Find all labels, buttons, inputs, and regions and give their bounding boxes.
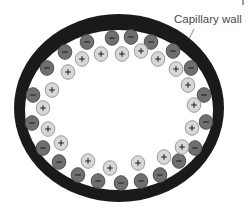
diagram-canvas: [0, 0, 248, 215]
positive-ion: [131, 156, 145, 171]
positive-ion: [103, 161, 117, 176]
negative-ion: [124, 30, 138, 45]
positive-ion: [151, 52, 165, 67]
negative-ion: [26, 88, 40, 103]
negative-ion: [80, 35, 94, 50]
negative-ion: [52, 155, 66, 170]
positive-ion: [45, 83, 59, 98]
negative-ion: [172, 154, 186, 169]
positive-ion: [36, 101, 50, 116]
negative-ion: [58, 45, 72, 60]
negative-ion: [105, 31, 119, 46]
positive-ion: [75, 52, 89, 67]
positive-ion: [187, 98, 201, 113]
capillary-cross-section-diagram: Capillary wall: [0, 0, 248, 215]
negative-ion: [166, 44, 180, 59]
negative-ion: [188, 141, 202, 156]
negative-ion: [71, 168, 85, 183]
positive-ion: [54, 136, 68, 151]
positive-ion: [169, 62, 183, 77]
positive-ion: [181, 78, 195, 93]
negative-ion: [184, 61, 198, 76]
negative-ion: [199, 115, 213, 130]
label-pointer-line: [189, 29, 194, 39]
positive-ion: [41, 122, 55, 137]
capillary-wall-label: Capillary wall: [174, 13, 242, 25]
positive-ion: [185, 121, 199, 136]
positive-ion: [61, 65, 75, 80]
negative-ion: [91, 174, 105, 189]
positive-ion: [94, 47, 108, 62]
positive-ion: [175, 140, 189, 155]
negative-ion: [40, 61, 54, 76]
negative-ion: [25, 116, 39, 131]
negative-ion: [153, 168, 167, 183]
positive-ion: [134, 44, 148, 59]
positive-ion: [115, 47, 129, 62]
positive-ion: [81, 154, 95, 169]
negative-ion: [36, 141, 50, 156]
negative-ion: [114, 176, 128, 191]
negative-ion: [134, 174, 148, 189]
positive-ion: [157, 150, 171, 165]
